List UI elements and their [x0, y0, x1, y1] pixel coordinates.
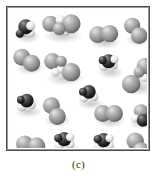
molecule-m14: [16, 135, 45, 148]
figure-caption: (c): [0, 158, 157, 170]
molecule-m3: [89, 25, 118, 43]
molecule-m17: [126, 132, 147, 148]
molecule-m12: [94, 105, 123, 122]
molecule-m1: [16, 19, 36, 38]
molecule-m16: [94, 133, 115, 148]
molecule-box-inner: [9, 9, 147, 148]
molecule-diagram: [9, 9, 147, 148]
figure-container: (c): [0, 0, 157, 183]
molecule-m7: [99, 54, 119, 71]
molecule-box-frame: [6, 6, 150, 151]
molecule-m15: [54, 132, 75, 148]
